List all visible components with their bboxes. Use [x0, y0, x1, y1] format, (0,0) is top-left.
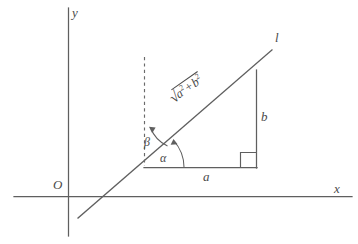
beta-angle-label: β [144, 136, 150, 148]
figure-canvas [0, 0, 358, 244]
line-l-label: l [275, 31, 279, 44]
right-angle-icon [241, 153, 257, 168]
alpha-angle-label: α [160, 152, 166, 164]
beta-arrow-icon [149, 127, 156, 133]
geometry-figure: y x O l a b α β √a2+b2 [0, 0, 358, 244]
x-axis-label: x [334, 182, 340, 195]
origin-label: O [53, 178, 62, 191]
alpha-arrow-icon [171, 139, 178, 145]
leg-b-label: b [261, 110, 268, 123]
line-l [78, 50, 272, 218]
leg-a-label: a [203, 170, 210, 183]
alpha-arc [174, 141, 185, 168]
y-axis-label: y [72, 6, 78, 19]
